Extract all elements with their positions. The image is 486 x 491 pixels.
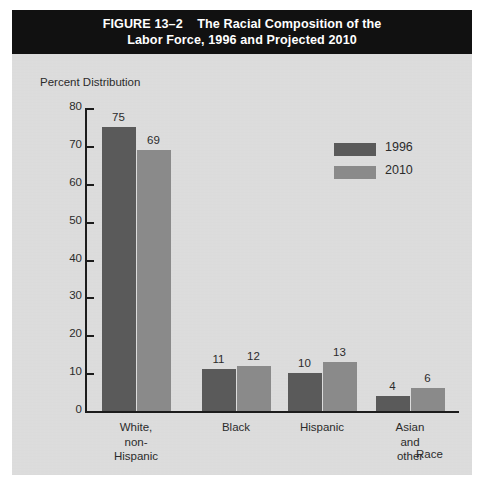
bar-value-label: 11: [213, 353, 225, 365]
y-tick: 50: [52, 222, 94, 224]
y-tick: 10: [52, 373, 94, 375]
category-label-line: White,: [91, 420, 181, 435]
legend-swatch-2010: [334, 166, 376, 179]
category-label: Hispanic: [277, 420, 367, 435]
y-tick: 20: [52, 335, 94, 337]
y-tick: 0: [52, 411, 94, 413]
bar-value-label: 75: [112, 111, 125, 123]
category-label: White,non-Hispanic: [91, 420, 181, 464]
plot-area: Percent Distribution 01020304050607080 7…: [12, 54, 472, 475]
y-tick-label: 60: [56, 176, 82, 188]
y-tick-mark: [87, 373, 94, 375]
figure-title-bar: FIGURE 13–2 The Racial Composition of th…: [12, 10, 472, 54]
category-label: Black: [191, 420, 281, 435]
figure-panel: FIGURE 13–2 The Racial Composition of th…: [12, 10, 472, 475]
y-tick: 80: [52, 108, 94, 110]
bar-value-label: 4: [389, 380, 395, 392]
category-label-line: non-: [91, 435, 181, 450]
bar: [323, 362, 357, 411]
bar: [288, 373, 322, 411]
y-tick-label: 10: [56, 365, 82, 377]
figure-root: FIGURE 13–2 The Racial Composition of th…: [0, 0, 486, 491]
y-tick-mark: [87, 108, 94, 110]
bar-value-label: 6: [424, 372, 430, 384]
category-label-line: Asian: [365, 420, 455, 435]
bar-value-label: 13: [333, 346, 346, 358]
y-tick-label: 50: [56, 214, 82, 226]
bar: [137, 150, 171, 411]
bar: [102, 127, 136, 411]
bar-value-label: 12: [247, 350, 260, 362]
legend-swatch-1996: [334, 143, 376, 156]
y-tick-label: 30: [56, 289, 82, 301]
y-tick: 60: [52, 184, 94, 186]
y-tick-mark: [87, 335, 94, 337]
y-tick-label: 0: [56, 403, 82, 415]
figure-title-line-1: FIGURE 13–2 The Racial Composition of th…: [103, 16, 382, 32]
bar: [202, 369, 236, 411]
category-label-line: Black: [191, 420, 281, 435]
y-tick: 30: [52, 297, 94, 299]
bar: [411, 388, 445, 411]
legend-label-2010: 2010: [385, 163, 413, 177]
bar: [237, 366, 271, 411]
y-tick-label: 20: [56, 327, 82, 339]
y-tick-label: 70: [56, 138, 82, 150]
bar-value-label: 10: [298, 357, 311, 369]
category-label-line: Hispanic: [277, 420, 367, 435]
y-tick-mark: [87, 260, 94, 262]
figure-title-line-2: Labor Force, 1996 and Projected 2010: [127, 32, 357, 48]
category-label-line: and: [365, 435, 455, 450]
category-label-line: Hispanic: [91, 449, 181, 464]
y-tick-mark: [87, 184, 94, 186]
y-axis-label: Percent Distribution: [40, 76, 140, 88]
y-tick-mark: [87, 146, 94, 148]
x-axis-line: [85, 411, 459, 413]
y-tick-mark: [87, 297, 94, 299]
y-tick-label: 80: [56, 100, 82, 112]
bar-value-label: 69: [147, 134, 160, 146]
y-tick: 70: [52, 146, 94, 148]
legend-label-1996: 1996: [385, 140, 413, 154]
bar: [376, 396, 410, 411]
x-axis-label: Race: [416, 448, 443, 460]
y-tick: 40: [52, 260, 94, 262]
y-tick-label: 40: [56, 252, 82, 264]
y-tick-mark: [87, 222, 94, 224]
